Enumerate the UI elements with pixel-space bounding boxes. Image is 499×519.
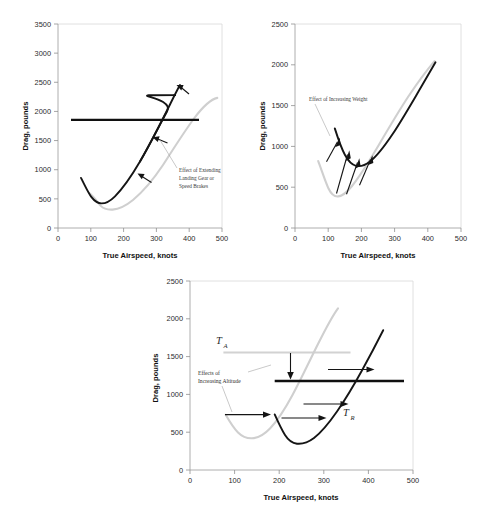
- chart-1-canvas: 3500 3000 2500 2000 1500 1000 500 0 0 10…: [0, 0, 250, 270]
- chart-1-frame: [58, 24, 222, 228]
- chart-2-canvas: 2500 2000 1500 1000 500 0 0 100 200 300 …: [249, 0, 499, 270]
- chart-2-frame: [295, 24, 461, 228]
- thrust-required-label: T R: [343, 407, 355, 421]
- chart-2-ytick-2500: 2500: [272, 20, 288, 29]
- chart-1-ylabel: Drag, pounds: [21, 102, 30, 151]
- chart-2-weight-arrow-4: [360, 155, 374, 185]
- chart-2-y-ticks: 2500 2000 1500 1000 500 0: [272, 20, 295, 233]
- chart-3-y-ticks: 2500 2000 1500 1000 500 0: [167, 277, 190, 475]
- chart-1-ytick-3000: 3000: [35, 49, 51, 58]
- chart-3-xtick-100: 100: [228, 476, 240, 485]
- chart-2-ytick-1000: 1000: [272, 142, 288, 151]
- chart-2-xtick-100: 100: [322, 234, 334, 243]
- chart-1-ytick-2000: 2000: [35, 107, 51, 116]
- chart-3-shift-arrow-mid-low: [282, 415, 327, 421]
- chart-2-xtick-0: 0: [293, 234, 297, 243]
- chart-1-ytick-1000: 1000: [35, 165, 51, 174]
- chart-2-weight-arrow-1: [327, 138, 341, 162]
- chart-1-shift-arrow-lower: [138, 174, 152, 183]
- chart-3-thrust-required-line: [275, 330, 384, 444]
- chart-2-xtick-300: 300: [388, 234, 400, 243]
- thrust-required-base: T: [343, 407, 350, 418]
- chart-3-ytick-1500: 1500: [167, 352, 183, 361]
- chart-1-xtick-400: 400: [183, 234, 195, 243]
- chart-1-x-ticks: 0 100 200 300 400 500: [56, 228, 228, 243]
- chart-drag-increasing-altitude: 2500 2000 1500 1000 500 0 0 100 200 300 …: [130, 273, 499, 519]
- thrust-required-sub: R: [350, 414, 355, 421]
- chart-2-x-ticks: 0 100 200 300 400 500: [293, 228, 467, 243]
- chart-1-annotation-line-2: Landing Gear or: [179, 175, 214, 181]
- chart-3-ytick-0: 0: [179, 466, 183, 475]
- chart-3-canvas: 2500 2000 1500 1000 500 0 0 100 200 300 …: [130, 273, 499, 519]
- chart-1-ytick-2500: 2500: [35, 78, 51, 87]
- chart-1-y-ticks: 3500 3000 2500 2000 1500 1000 500 0: [35, 20, 58, 233]
- chart-3-xtick-400: 400: [362, 476, 374, 485]
- chart-3-xlabel: True Airspeed, knots: [264, 493, 339, 502]
- chart-3-annotation-leader-down: [222, 386, 232, 412]
- chart-3-shift-arrow-low: [225, 412, 271, 418]
- chart-3-ytick-2000: 2000: [167, 314, 183, 323]
- chart-1-xtick-0: 0: [56, 234, 60, 243]
- chart-2-ylabel: Drag, pounds: [258, 102, 267, 151]
- chart-2-ytick-2000: 2000: [272, 60, 288, 69]
- chart-1-xtick-500: 500: [216, 234, 228, 243]
- chart-1-ytick-3500: 3500: [35, 20, 51, 29]
- chart-3-xtick-500: 500: [407, 476, 419, 485]
- chart-3-x-ticks: 0 100 200 300 400 500: [188, 470, 419, 485]
- chart-2-xtick-500: 500: [455, 234, 467, 243]
- chart-2-xlabel: True Airspeed, knots: [341, 251, 416, 260]
- chart-3-ytick-2500: 2500: [167, 277, 183, 286]
- chart-1-ytick-0: 0: [47, 224, 51, 233]
- chart-3-thrust-drop-arrow: [287, 353, 294, 380]
- chart-3-annotation-line-2: Increasing Altitude: [198, 378, 241, 384]
- chart-2-xtick-400: 400: [422, 234, 434, 243]
- chart-3-shift-arrow-upper: [328, 366, 375, 372]
- chart-1-xtick-200: 200: [117, 234, 129, 243]
- chart-2-xtick-200: 200: [355, 234, 367, 243]
- chart-drag-landing-gear: 3500 3000 2500 2000 1500 1000 500 0 0 10…: [0, 0, 250, 270]
- chart-3-ytick-500: 500: [171, 428, 183, 437]
- chart-3-xtick-200: 200: [273, 476, 285, 485]
- chart-1-curve-extended: [81, 95, 176, 203]
- chart-1-xtick-300: 300: [150, 234, 162, 243]
- chart-drag-increasing-weight: 2500 2000 1500 1000 500 0 0 100 200 300 …: [249, 0, 499, 270]
- chart-1-ytick-500: 500: [39, 195, 51, 204]
- chart-1-xtick-100: 100: [85, 234, 97, 243]
- chart-1-ytick-1500: 1500: [35, 136, 51, 145]
- thrust-available-label: T A: [216, 335, 229, 349]
- chart-3-shift-arrow-mid: [304, 401, 349, 407]
- chart-1-shift-arrow-middle: [153, 136, 168, 143]
- chart-2-ytick-500: 500: [276, 183, 288, 192]
- chart-3-ytick-1000: 1000: [167, 390, 183, 399]
- chart-2-ytick-0: 0: [284, 224, 288, 233]
- chart-1-annotation-line-1: Effect of Extending: [179, 167, 221, 173]
- chart-1-curve-extended-upper: [140, 85, 180, 162]
- chart-3-xtick-300: 300: [318, 476, 330, 485]
- chart-3-annotation-leader-up: [248, 365, 271, 372]
- chart-2-annotation-leader: [315, 104, 330, 136]
- chart-3-annotation-line-1: Effects of: [198, 370, 220, 376]
- chart-2-annotation-text: Effect of Increasing Weight: [309, 96, 368, 102]
- chart-3-xtick-0: 0: [188, 476, 192, 485]
- chart-1-curve-reference: [89, 98, 217, 210]
- chart-1-annotation-line-3: Speed Brakes: [179, 183, 208, 189]
- chart-3-ylabel: Drag, pounds: [151, 354, 160, 403]
- thrust-available-base: T: [216, 335, 223, 346]
- chart-2-ytick-1500: 1500: [272, 101, 288, 110]
- chart-1-xlabel: True Airspeed, knots: [103, 251, 178, 260]
- thrust-available-sub: A: [223, 342, 229, 349]
